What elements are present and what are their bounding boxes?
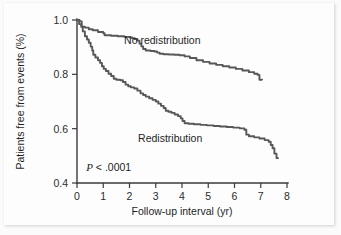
x-tick-label: 1 xyxy=(100,190,106,202)
x-tick-label: 8 xyxy=(284,190,290,202)
x-tick-label: 2 xyxy=(127,190,133,202)
x-tick-label: 4 xyxy=(179,190,185,202)
x-tick-label: 3 xyxy=(153,190,159,202)
y-tick-label: 0.6 xyxy=(53,123,68,135)
y-axis-title: Patients free from events (%) xyxy=(14,34,26,170)
p-value-annotation: P < .0001 xyxy=(85,161,131,173)
x-tick-label: 5 xyxy=(205,190,211,202)
series-line-no-redistribution xyxy=(77,20,262,80)
x-tick-label: 7 xyxy=(258,190,264,202)
x-axis-title: Follow-up interval (yr) xyxy=(132,205,233,217)
series-label-no-redistribution: No redistribution xyxy=(124,34,201,46)
annotations: P < .0001 xyxy=(85,161,131,173)
series-label-redistribution: Redistribution xyxy=(138,132,202,144)
y-tick-label: 0.8 xyxy=(53,68,68,80)
kaplan-meier-chart: 0.40.60.81.0012345678Follow-up interval … xyxy=(0,0,341,235)
figure-card: 0.40.60.81.0012345678Follow-up interval … xyxy=(0,0,341,235)
y-tick-label: 1.0 xyxy=(53,14,68,26)
x-tick-label: 0 xyxy=(74,190,80,202)
x-tick-label: 6 xyxy=(232,190,238,202)
y-tick-label: 0.4 xyxy=(53,177,68,189)
